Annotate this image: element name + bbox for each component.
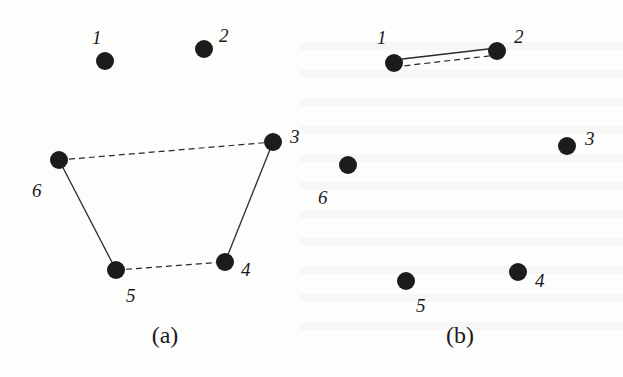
- edge-solid-1-2: [394, 48, 497, 60]
- node-1: [96, 52, 114, 70]
- node-label-1: 1: [377, 27, 387, 48]
- node-label-6: 6: [318, 187, 328, 208]
- node-2: [488, 42, 506, 60]
- node-label-3: 3: [289, 126, 300, 147]
- graph-figure: 123456(a)123456(b): [0, 0, 623, 377]
- node-label-5: 5: [126, 285, 136, 306]
- edge-solid-6-5: [59, 160, 116, 270]
- node-label-4: 4: [241, 259, 251, 280]
- node-4: [509, 263, 527, 281]
- panel-a: 123456(a): [32, 25, 300, 348]
- node-2: [195, 40, 213, 58]
- node-label-5: 5: [416, 295, 426, 316]
- edge-solid-4-3: [225, 142, 273, 262]
- node-4: [216, 253, 234, 271]
- node-label-4: 4: [535, 270, 545, 291]
- node-3: [264, 133, 282, 151]
- panel-b: 123456(b): [318, 26, 595, 348]
- panel-caption-b: (b): [446, 322, 474, 348]
- node-1: [385, 54, 403, 72]
- edge-dashed-1-2: [394, 55, 497, 67]
- node-5: [397, 272, 415, 290]
- node-3: [558, 137, 576, 155]
- node-label-2: 2: [219, 25, 229, 46]
- figure-canvas: 123456(a)123456(b): [0, 0, 623, 377]
- node-label-2: 2: [514, 26, 524, 47]
- node-label-6: 6: [32, 180, 42, 201]
- panel-caption-a: (a): [152, 322, 179, 348]
- node-label-1: 1: [92, 27, 102, 48]
- node-6: [339, 156, 357, 174]
- node-5: [107, 261, 125, 279]
- node-6: [50, 151, 68, 169]
- node-label-3: 3: [584, 128, 595, 149]
- edge-dashed-5-4: [116, 262, 225, 270]
- edge-dashed-6-3: [59, 142, 273, 160]
